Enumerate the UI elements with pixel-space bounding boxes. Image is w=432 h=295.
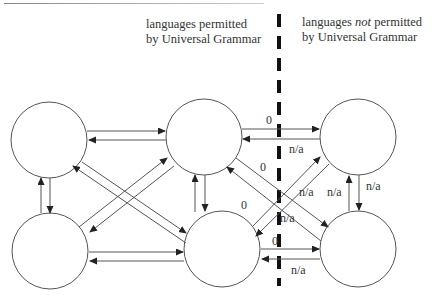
language-node-bottom-middle (184, 211, 260, 287)
language-node-top-middle (166, 99, 242, 175)
edge-label-tr-br: n/a (366, 179, 381, 193)
language-node-bottom-right (320, 211, 396, 287)
graph-svg: 0 n/a 0 0 n/a n/a n/a n/a 0 n/a (0, 0, 432, 295)
language-node-bottom-left (12, 213, 88, 289)
edge-label-bm-tr: 0 (241, 198, 247, 212)
edge-label-cross-zero: 0 (260, 160, 266, 174)
arrow-bl-to-tm (79, 158, 167, 227)
language-node-top-left (11, 102, 87, 178)
diagram: languages permitted by Universal Grammar… (0, 0, 432, 295)
edge-label-tr-tm: n/a (289, 142, 304, 156)
edge-label-br-tr: n/a (327, 185, 342, 199)
language-node-top-right (320, 99, 396, 175)
edge-label-tr-bm: n/a (280, 211, 295, 225)
edge-label-tm-tr: 0 (266, 113, 272, 127)
edge-label-tm-br: n/a (299, 185, 314, 199)
arrow-tr-to-bm (256, 164, 329, 236)
edge-label-bm-br: 0 (272, 234, 278, 248)
edge-label-br-bm: n/a (291, 263, 306, 277)
